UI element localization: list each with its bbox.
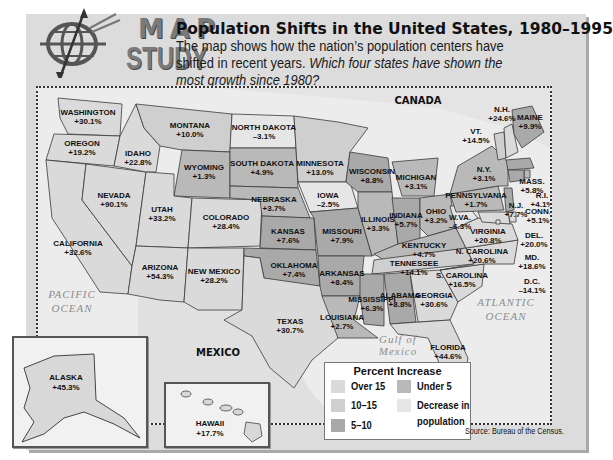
hawaii-name: HAWAII — [196, 419, 224, 428]
map-legend: Percent Increase Over 15 10–15 5–10 Unde… — [324, 362, 471, 440]
state-label-california: CALIFORNIA — [53, 239, 103, 248]
state-label-conn: CONN. — [525, 207, 550, 216]
legend-label-10-15: 10–15 — [351, 399, 377, 411]
state-value-louisiana: +2.7% — [331, 322, 354, 331]
state-value-md: +18.6% — [518, 262, 545, 271]
state-value-pennsylvania: +1.7% — [465, 200, 488, 209]
state-value-alabama: +8.8% — [389, 300, 412, 309]
page-title: Population Shifts in the United States, … — [176, 20, 613, 38]
state-d-c — [496, 220, 500, 224]
state-label-n-j: N.J. — [509, 201, 524, 210]
state-label-md: MD. — [525, 253, 540, 262]
state-label-w-va: W.VA. — [449, 213, 471, 222]
state-label-ohio: OHIO — [426, 207, 446, 216]
state-value-vt: +14.5% — [462, 136, 489, 145]
state-label-utah: UTAH — [151, 205, 173, 214]
alaska-inset: ALASKA +45.3% — [12, 336, 148, 448]
state-value-montana: +10.0% — [176, 130, 203, 139]
state-value-michigan: +3.1% — [405, 182, 428, 191]
state-value-iowa: –2.5% — [317, 200, 340, 209]
state-label-florida: FLORIDA — [430, 343, 466, 352]
state-value-illinois: +3.3% — [367, 224, 390, 233]
state-value-new-mexico: +28.2% — [200, 276, 227, 285]
state-value-del: +20.0% — [520, 240, 547, 249]
state-value-n-h: +24.6% — [488, 114, 515, 123]
state-value-maine: +9.9% — [519, 122, 542, 131]
alaska-value: +45.3% — [52, 383, 79, 392]
state-label-wisconsin: WISCONSIN — [349, 167, 395, 176]
state-value-kansas: +7.6% — [277, 236, 300, 245]
state-value-wisconsin: +8.8% — [361, 176, 384, 185]
state-label-kentucky: KENTUCKY — [402, 241, 447, 250]
state-label-r-i: R.I. — [536, 191, 548, 200]
gulf-of-mexico-label-2: Mexico — [378, 345, 417, 357]
state-value-florida: +44.6% — [434, 352, 461, 361]
state-label-tennessee: TENNESSEE — [390, 259, 439, 268]
state-label-colorado: COLORADO — [203, 213, 250, 222]
state-label-texas: TEXAS — [277, 317, 304, 326]
state-value-n-j: +7.7% — [505, 210, 528, 219]
legend-swatch-decrease — [397, 399, 411, 412]
state-label-indiana: INDIANA — [389, 211, 423, 220]
state-label-nebraska: NEBRASKA — [251, 195, 297, 204]
state-value-w-va: –6.3% — [449, 222, 472, 231]
state-label-vt: VT. — [470, 127, 482, 136]
mexico-label: MEXICO — [196, 347, 240, 358]
state-label-n-carolina: N. CAROLINA — [456, 247, 509, 256]
atlantic-ocean-label-2: OCEAN — [485, 310, 526, 322]
legend-swatch-10-15 — [331, 399, 345, 412]
state-label-new-mexico: NEW MEXICO — [188, 267, 240, 276]
state-value-california: +32.6% — [64, 248, 91, 257]
state-value-conn: +5.1% — [527, 216, 550, 225]
state-value-kentucky: +4.7% — [413, 250, 436, 259]
canada-label: CANADA — [394, 95, 441, 106]
legend-label-decrease: Decrease in — [417, 399, 470, 411]
map-study-logo: MAP STUDY — [30, 6, 170, 78]
state-label-north-dakota: NORTH DAKOTA — [232, 123, 297, 132]
state-label-georgia: GEORGIA — [415, 291, 453, 300]
state-value-n-carolina: +20.6% — [468, 256, 495, 265]
big-island-shape — [244, 422, 262, 442]
pacific-ocean-label-2: OCEAN — [51, 302, 92, 314]
state-label-arizona: ARIZONA — [142, 263, 179, 272]
legend-title: Percent Increase — [325, 365, 470, 377]
state-value-n-y: +3.1% — [473, 174, 496, 183]
hawaii-value: +17.7% — [196, 429, 223, 438]
state-value-virginia: +20.8% — [474, 236, 501, 245]
state-value-washington: +30.1% — [74, 117, 101, 126]
atlantic-ocean-label-1: ATLANTIC — [476, 296, 535, 308]
state-value-ohio: +3.2% — [425, 216, 448, 225]
state-value-arkansas: +8.4% — [331, 278, 354, 287]
state-label-pennsylvania: PENNSYLVANIA — [445, 191, 507, 200]
legend-swatch-5-10 — [331, 419, 345, 432]
legend-label-population: population — [417, 415, 465, 427]
state-label-wyoming: WYOMING — [184, 163, 224, 172]
state-label-idaho: IDAHO — [125, 149, 151, 158]
state-value-south-dakota: +4.9% — [251, 168, 274, 177]
state-label-iowa: IOWA — [317, 191, 339, 200]
state-value-nevada: +90.1% — [100, 200, 127, 209]
state-label-oklahoma: OKLAHOMA — [270, 261, 317, 270]
state-label-nevada: NEVADA — [97, 191, 130, 200]
alaska-shape — [22, 354, 140, 442]
state-label-oregon: OREGON — [64, 139, 100, 148]
state-label-del: DEL. — [525, 231, 543, 240]
state-value-colorado: +28.4% — [212, 222, 239, 231]
state-value-s-carolina: +16.5% — [448, 280, 475, 289]
state-label-kansas: KANSAS — [271, 227, 305, 236]
state-label-missouri: MISSOURI — [322, 227, 362, 236]
legend-label-5-10: 5–10 — [351, 419, 372, 431]
state-label-virginia: VIRGINIA — [470, 227, 506, 236]
state-mass — [506, 158, 534, 170]
state-label-n-y: N.Y. — [477, 165, 492, 174]
legend-label-over-15: Over 15 — [351, 380, 385, 392]
legend-swatch-under-5 — [397, 380, 411, 393]
state-label-arkansas: ARKANSAS — [319, 269, 365, 278]
state-value-d-c: –14.1% — [518, 286, 545, 295]
state-value-missouri: +7.9% — [331, 236, 354, 245]
state-value-oklahoma: +7.4% — [283, 270, 306, 279]
state-value-minnesota: +13.0% — [306, 168, 333, 177]
alaska-name: ALASKA — [49, 373, 83, 382]
state-label-michigan: MICHIGAN — [396, 173, 437, 182]
state-label-mass: MASS. — [519, 177, 544, 186]
